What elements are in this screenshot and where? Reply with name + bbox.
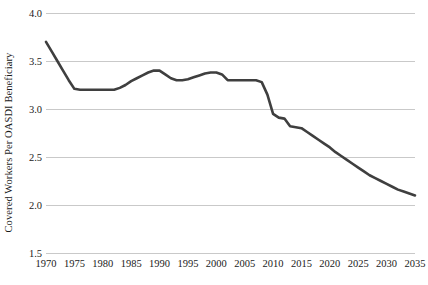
x-tick-label: 2005 [234, 258, 255, 269]
series-polyline [46, 42, 415, 196]
line-series [46, 13, 415, 253]
plot-area [46, 13, 415, 253]
x-tick-label: 2010 [263, 258, 284, 269]
x-tick-label: 2020 [319, 258, 340, 269]
chart-container: Covered Workers Per OASDI Beneficiary 4.… [0, 0, 428, 285]
y-tick-label: 4.0 [0, 8, 42, 19]
x-tick-label: 1980 [92, 258, 113, 269]
y-tick-label: 1.5 [0, 248, 42, 259]
y-tick-label: 2.0 [0, 200, 42, 211]
y-tick-label: 3.5 [0, 56, 42, 67]
x-tick-label: 2015 [291, 258, 312, 269]
x-tick-label: 1975 [64, 258, 85, 269]
y-tick-label: 3.0 [0, 104, 42, 115]
gridline [46, 253, 415, 254]
x-tick-label: 1985 [121, 258, 142, 269]
x-tick-label: 2030 [376, 258, 397, 269]
x-tick-label: 2035 [405, 258, 426, 269]
x-axis-tick-labels: 1970197519801985199019952000200520102015… [46, 258, 415, 276]
x-tick-label: 2000 [206, 258, 227, 269]
x-tick-label: 2025 [348, 258, 369, 269]
x-tick-label: 1970 [36, 258, 57, 269]
y-tick-label: 2.5 [0, 152, 42, 163]
x-tick-label: 1995 [177, 258, 198, 269]
y-axis-tick-labels: 4.03.53.02.52.01.5 [0, 0, 42, 285]
x-tick-label: 1990 [149, 258, 170, 269]
